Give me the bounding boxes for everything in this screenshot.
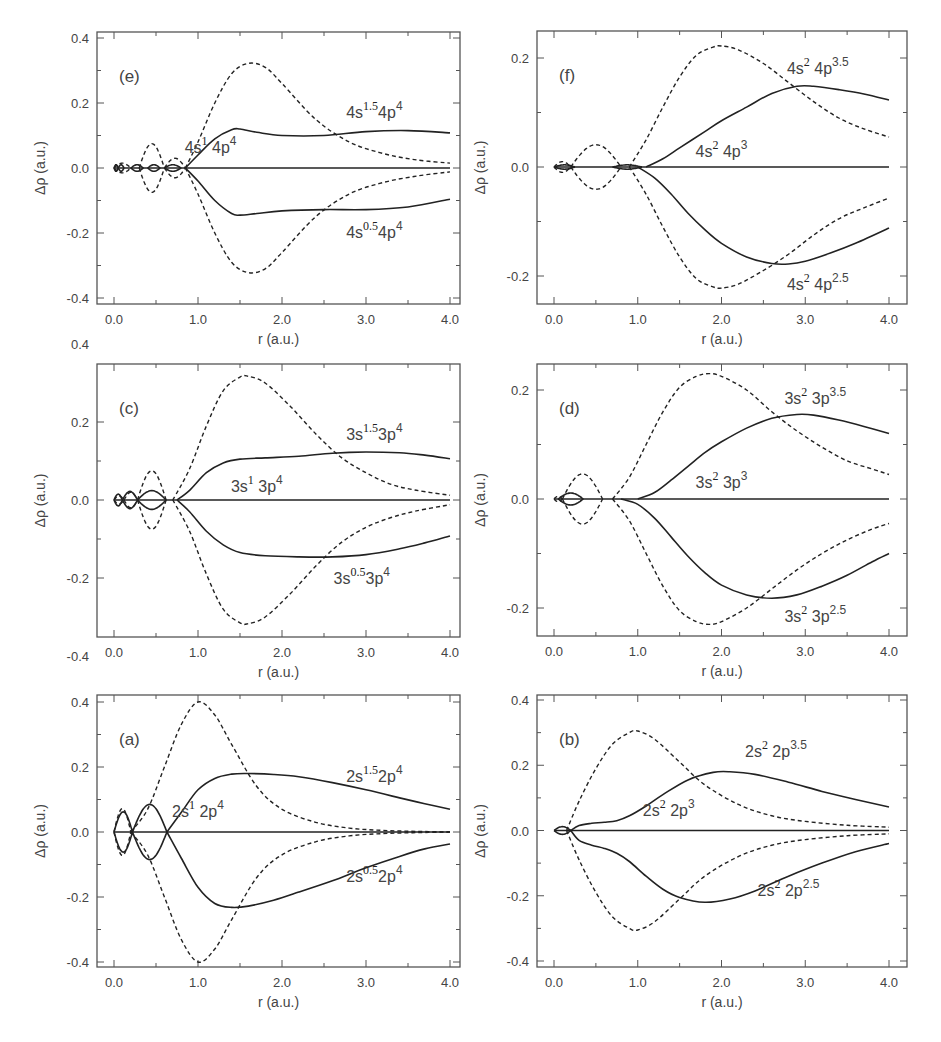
inner-oscillation-curve: [571, 145, 621, 167]
curve-annotation: 2s2 2p3: [643, 797, 695, 819]
x-tick-label: 1.0: [629, 312, 647, 327]
x-tick-label: 3.0: [357, 975, 375, 990]
y-axis-label: Δρ (a.u.): [472, 141, 488, 195]
curve-annotation: 2s1 2p4: [172, 798, 224, 820]
x-axis-label: r (a.u.): [701, 994, 742, 1010]
series-lower-dashed: [629, 167, 889, 288]
y-axis-label: Δρ (a.u.): [472, 804, 488, 858]
series-upper-dashed: [567, 730, 889, 830]
series-upper-dashed: [629, 46, 889, 167]
curve-annotation: 4s2 4p3: [696, 138, 748, 160]
y-tick-label: 0.0: [71, 825, 89, 840]
series-4s0-5-4p4: [185, 168, 450, 215]
figure-canvas: 0.01.02.03.04.00.40.20.0-0.2-0.4r (a.u.)…: [0, 0, 941, 1042]
x-tick-label: 4.0: [441, 975, 459, 990]
curve-annotation: 4s1.54p4: [346, 99, 403, 121]
curve-annotation: 2s1.52p4: [346, 763, 403, 785]
x-tick-label: 4.0: [441, 312, 459, 327]
curve-annotation: 4s0.54p4: [346, 219, 403, 241]
series-lower-dashed: [131, 832, 450, 962]
y-tick-label: 0.4: [71, 337, 89, 352]
x-tick-label: 1.0: [629, 975, 647, 990]
y-tick-label: -0.2: [67, 890, 89, 905]
x-tick-label: 0.0: [545, 644, 563, 659]
y-tick-label: 0.2: [71, 96, 89, 111]
series-3s2-3p3-5: [638, 414, 889, 499]
panel-a: 0.01.02.03.04.00.40.20.0-0.2-0.4r (a.u.)…: [32, 695, 460, 1010]
x-tick-label: 1.0: [189, 645, 207, 660]
x-tick-label: 3.0: [796, 312, 814, 327]
y-tick-label: -0.2: [67, 226, 89, 241]
y-tick-label: 0.2: [511, 51, 529, 66]
panel-b: 0.01.02.03.04.00.40.20.0-0.2-0.4r (a.u.)…: [472, 693, 907, 1010]
inner-oscillation-curve: [562, 499, 602, 524]
panel-d: 0.01.02.03.04.00.20.0-0.2r (a.u.)Δρ (a.u…: [472, 364, 907, 679]
y-tick-label: 0.2: [71, 415, 89, 430]
series-upper-dashed: [173, 375, 450, 500]
series-lower-dashed: [567, 831, 889, 931]
inner-oscillation-curve: [138, 491, 167, 500]
y-axis-label: Δρ (a.u.): [32, 804, 48, 858]
y-tick-label: 0.4: [71, 695, 89, 710]
curve-annotation: 4s1 4p4: [185, 134, 237, 156]
series-2s2-2p2-5: [571, 831, 889, 903]
series-2s2-2p3-5: [571, 771, 889, 830]
y-tick-label: 0.2: [511, 383, 529, 398]
y-axis-label: Δρ (a.u.): [32, 474, 48, 528]
x-tick-label: 3.0: [796, 644, 814, 659]
y-tick-label: 0.0: [511, 824, 529, 839]
x-tick-label: 1.0: [189, 312, 207, 327]
y-tick-label: 0.4: [511, 693, 529, 708]
y-tick-label: -0.2: [507, 889, 529, 904]
panel-label: (a): [119, 730, 140, 749]
series-4s2-4p3-5: [646, 86, 889, 167]
y-tick-label: 0.0: [511, 492, 529, 507]
y-tick-label: 0.4: [71, 31, 89, 46]
x-axis-label: r (a.u.): [701, 663, 742, 679]
x-tick-label: 0.0: [105, 312, 123, 327]
x-tick-label: 1.0: [629, 644, 647, 659]
x-axis-label: r (a.u.): [258, 994, 299, 1010]
x-tick-label: 0.0: [105, 975, 123, 990]
curve-annotation: 2s0.52p4: [346, 863, 403, 885]
x-tick-label: 3.0: [357, 312, 375, 327]
curve-annotation: 2s2 2p3.5: [745, 738, 807, 760]
plot-frame: [537, 364, 907, 636]
x-tick-label: 4.0: [441, 645, 459, 660]
y-tick-label: -0.4: [67, 649, 89, 664]
y-tick-label: 0.2: [71, 760, 89, 775]
inner-oscillation-curve: [139, 144, 164, 168]
x-tick-label: 3.0: [357, 645, 375, 660]
x-tick-label: 2.0: [712, 644, 730, 659]
curve-annotation: 3s1 3p4: [231, 473, 283, 495]
x-tick-label: 2.0: [712, 975, 730, 990]
panel-c: 0.01.02.03.04.00.40.20.0-0.2-0.4r (a.u.)…: [32, 337, 460, 680]
panel-f: 0.01.02.03.04.00.20.0-0.2r (a.u.)Δρ (a.u…: [472, 31, 907, 347]
x-tick-label: 2.0: [273, 975, 291, 990]
inner-oscillation-curve: [138, 500, 167, 509]
series-lower-dashed: [185, 168, 450, 273]
curve-annotation: 3s2 3p3.5: [784, 385, 846, 407]
x-tick-label: 0.0: [545, 312, 563, 327]
curve-annotation: 2s2 2p2.5: [758, 877, 820, 899]
x-tick-label: 2.0: [273, 645, 291, 660]
x-axis-label: r (a.u.): [258, 664, 299, 680]
curve-annotation: 3s0.53p4: [334, 565, 391, 587]
y-axis-label: Δρ (a.u.): [32, 141, 48, 195]
y-tick-label: -0.4: [67, 955, 89, 970]
panel-label: (f): [559, 66, 575, 85]
x-axis-label: r (a.u.): [258, 331, 299, 347]
x-tick-label: 0.0: [105, 645, 123, 660]
x-tick-label: 4.0: [880, 975, 898, 990]
panel-e: 0.01.02.03.04.00.40.20.0-0.2-0.4r (a.u.)…: [32, 31, 460, 347]
y-tick-label: -0.4: [507, 954, 529, 969]
inner-oscillation-curve: [133, 832, 167, 860]
panel-label: (c): [119, 399, 139, 418]
x-tick-label: 2.0: [712, 312, 730, 327]
y-tick-label: -0.2: [507, 601, 529, 616]
x-tick-label: 4.0: [880, 312, 898, 327]
y-tick-label: -0.4: [67, 291, 89, 306]
inner-oscillation-curve: [133, 804, 167, 832]
x-axis-label: r (a.u.): [701, 331, 742, 347]
y-tick-label: -0.2: [67, 571, 89, 586]
